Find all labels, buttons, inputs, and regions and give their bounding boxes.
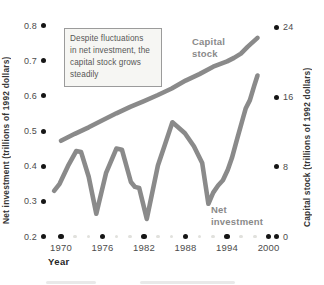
x-axis-tick-label: 1976 [86,243,120,253]
left-axis-tick-dot [41,23,46,28]
x-axis-tick-dot [141,234,146,239]
annotation-line: capital stock grows [70,57,156,69]
x-axis-minor-tick-dot [87,235,91,239]
x-axis-minor-tick-dot [211,235,215,239]
right-axis-tick-dot [274,234,279,239]
annotation-box: Despite fluctuations in net investment, … [64,28,162,87]
right-axis-tick-label: 24 [283,22,307,32]
left-axis-tick-dot [41,199,46,204]
right-axis-tick-dot [274,25,279,30]
x-axis-minor-tick-dot [239,235,243,239]
x-axis-minor-tick-dot [253,235,257,239]
x-axis-tick-label: 1988 [169,243,203,253]
x-axis-minor-tick-dot [73,235,77,239]
x-axis-tick-label: 1994 [210,243,244,253]
left-axis-tick-label: 0.5 [10,126,37,136]
left-axis-tick-dot [41,93,46,98]
right-axis-tick-dot [274,95,279,100]
right-axis-tick-label: 8 [283,162,307,172]
annotation-line: Despite fluctuations [70,33,156,45]
left-axis-tick-label: 0.4 [10,161,37,171]
right-axis-tick-label: 16 [283,92,307,102]
x-axis-tick-label: 1970 [44,243,78,253]
x-axis-tick-dot [58,234,63,239]
net-investment-curve [54,76,257,219]
x-axis-minor-tick-dot [115,235,119,239]
x-axis-minor-tick-dot [128,235,132,239]
left-axis-tick-label: 0.8 [10,21,37,31]
x-axis-tick-dot [100,234,105,239]
x-axis-minor-tick-dot [170,235,174,239]
right-axis-tick-dot [274,164,279,169]
right-axis-tick-label: 0 [283,232,307,242]
x-axis-tick-dot [266,234,271,239]
left-axis-tick-dot [41,234,46,239]
left-axis-tick-label: 0.3 [10,196,37,206]
x-axis-minor-tick-dot [156,235,160,239]
right-y-axis-title: Capital stock (trillions of 1992 dollars… [302,48,312,246]
left-axis-tick-label: 0.7 [10,56,37,66]
left-axis-tick-dot [41,129,46,134]
capital-stock-net-investment-figure: Net investment (trillions of 1992 dollar… [0,0,324,285]
left-axis-tick-label: 0.2 [10,232,37,242]
x-axis-tick-dot [183,234,188,239]
x-axis-tick-dot [224,234,229,239]
x-axis-title: Year [48,256,70,267]
x-axis-tick-label: 1982 [127,243,161,253]
cropped-caption-remnant [46,281,96,284]
left-axis-tick-label: 0.6 [10,91,37,101]
annotation-line: steadily [70,69,156,81]
capital-stock-series-label: Capital stock [192,36,238,59]
annotation-line: in net investment, the [70,45,156,57]
net-investment-series-label: Net investment [211,204,277,227]
x-axis-minor-tick-dot [198,235,202,239]
left-axis-tick-dot [41,58,46,63]
cropped-caption-remnant [140,281,235,284]
left-y-axis-title: Net investment (trillions of 1992 dollar… [1,34,11,246]
left-axis-tick-dot [41,164,46,169]
x-axis-tick-label: 2000 [252,243,286,253]
